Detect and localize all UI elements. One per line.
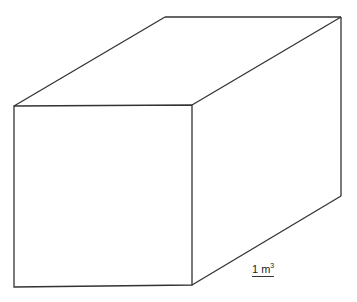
volume-label-exponent: 3 xyxy=(270,262,274,269)
cuboid-drawing xyxy=(0,0,357,302)
volume-label-value: 1 m xyxy=(252,263,270,275)
front-face xyxy=(14,105,192,287)
volume-label: 1 m3 xyxy=(252,262,274,277)
label-underline xyxy=(252,276,274,277)
top-right-diagonal-edge xyxy=(192,17,341,105)
top-left-diagonal-edge xyxy=(14,17,165,106)
